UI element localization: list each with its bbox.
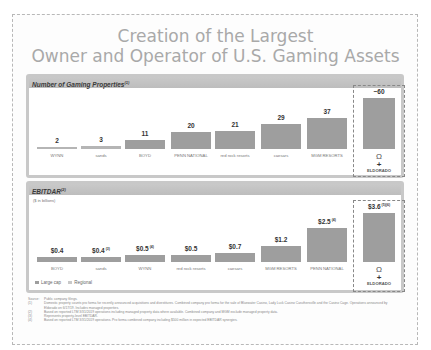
bar-value-label: 11 <box>119 130 171 137</box>
bar-value-label: $2.5 (4) <box>301 218 353 225</box>
title-line-1: Creation of the Largest <box>0 26 431 46</box>
value-footnote: (4) <box>149 245 154 249</box>
legend-swatch-large-cap <box>35 281 39 284</box>
bar <box>37 147 77 149</box>
bar <box>215 131 255 149</box>
value-footnote: (3) <box>105 247 110 251</box>
bar-value-label: 3 <box>75 136 127 143</box>
footnotes: Source:Public company filings. (1)Domest… <box>28 297 398 323</box>
footnote-key: (4) <box>28 318 44 322</box>
company-logo: BOYD <box>119 153 171 158</box>
bar <box>215 253 255 262</box>
properties-panel: Number of Gaming Properties(1) 2WYNN3san… <box>26 74 404 178</box>
bar-value-label: 29 <box>255 114 307 121</box>
company-logo: WYNN <box>119 266 171 271</box>
bar-value-label: $0.7 <box>209 243 261 250</box>
bar-value-label: $0.5 (4) <box>119 245 171 252</box>
bar-value-label: $1.2 <box>255 236 307 243</box>
ebitdar-panel: EBITDAR(2) ($ in billions) $0.4BOYD$0.4 … <box>26 181 404 293</box>
bar <box>37 257 77 262</box>
title-line-2: Owner and Operator of U.S. Gaming Assets <box>0 46 431 66</box>
properties-bars: 2WYNN3sands11BOYD20PENN NATIONAL21red ro… <box>29 77 401 175</box>
ebitdar-bars: $0.4BOYD$0.4 (3)sands$0.5 (4)WYNN$0.5red… <box>29 184 401 290</box>
company-logo: caesars <box>209 266 261 271</box>
bar <box>261 124 301 149</box>
bar <box>261 246 301 262</box>
combined-company-highlight <box>353 85 405 177</box>
legend-large-cap: Large cap <box>41 280 61 285</box>
bar-value-label: 21 <box>209 121 261 128</box>
footnote: (4)Based on reported LTM 3/31/2019 opera… <box>28 318 398 322</box>
bar <box>125 140 165 149</box>
footnote-key: (1) <box>28 301 44 310</box>
company-logo: MGM RESORTS <box>301 153 353 158</box>
bar <box>81 257 121 262</box>
legend-swatch-regional <box>68 281 72 284</box>
footnote-text: Based on reported LTM 3/31/2019 operatio… <box>44 318 237 322</box>
bar <box>81 146 121 149</box>
legend: Large cap Regional <box>35 280 92 285</box>
slide-title: Creation of the Largest Owner and Operat… <box>0 26 431 66</box>
combined-company-highlight <box>353 200 405 292</box>
bar <box>307 228 347 262</box>
company-logo: caesars <box>255 153 307 158</box>
footnote-text: Domestic property counts pro forma for r… <box>44 301 398 310</box>
bar <box>171 255 211 262</box>
bar <box>307 118 347 149</box>
bar-value-label: 37 <box>301 108 353 115</box>
bar <box>171 132 211 149</box>
company-logo: MGM RESORTS <box>255 266 307 271</box>
bar <box>125 255 165 262</box>
company-logo: PENN NATIONAL <box>301 266 353 271</box>
legend-regional: Regional <box>74 280 92 285</box>
company-logo: red rock resorts <box>209 153 261 158</box>
footnote: (1)Domestic property counts pro forma fo… <box>28 301 398 310</box>
value-footnote: (4) <box>331 218 336 222</box>
